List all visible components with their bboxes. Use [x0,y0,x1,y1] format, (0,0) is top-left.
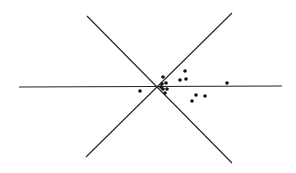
data-point [138,89,142,93]
data-point [163,91,167,95]
diagonal-descending-line [87,16,232,163]
axis-lines [19,13,282,163]
data-point [203,94,207,98]
data-point [184,77,188,81]
diagram-canvas [0,0,296,173]
diagonal-ascending-line [86,13,232,157]
horizontal-axis-line [19,86,282,87]
data-point [194,93,198,97]
data-point [178,78,182,82]
data-point [190,99,194,103]
data-point [165,87,169,91]
data-point [164,81,168,85]
data-point [225,81,229,85]
data-point [161,87,165,91]
data-point [183,69,187,73]
data-point [161,75,165,79]
